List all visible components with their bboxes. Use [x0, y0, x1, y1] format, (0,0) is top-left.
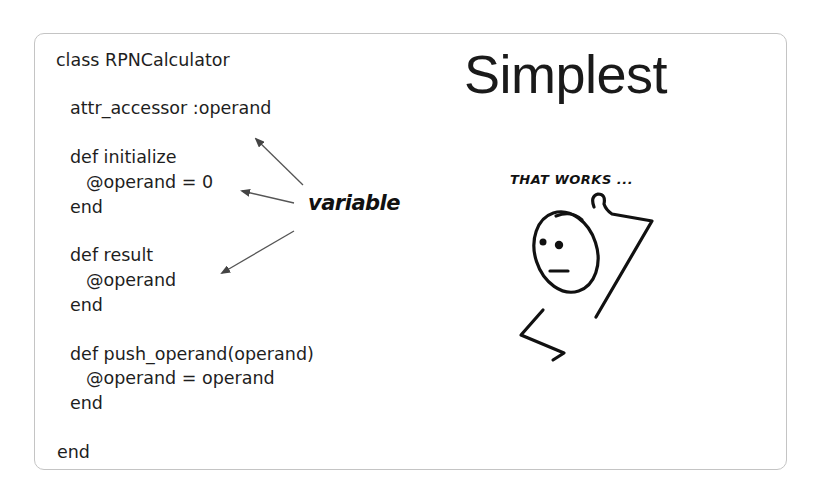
- stick-figure-shrug-icon: [0, 0, 821, 495]
